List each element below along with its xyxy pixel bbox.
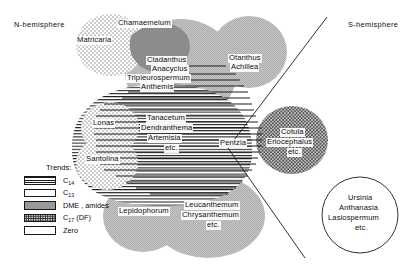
label-leucanthemum-etc: etc. [206, 221, 221, 230]
legend-item-c14: C14 [24, 175, 109, 186]
legend-label-c17: C17 (DF) [63, 213, 91, 223]
label-ursinia: Ursinia [348, 194, 372, 203]
legend-item-dme: DME , amides [24, 200, 109, 211]
legend-swatch-c13 [24, 189, 56, 198]
label-artemisia: Artemisia [147, 134, 182, 143]
label-lepidophorum: Lepidophorum [118, 207, 170, 216]
label-n-hemisphere: N-hemisphere [14, 21, 65, 30]
label-chrysanthemum: Chrysanthemum [181, 211, 240, 220]
label-lonas: Lonas [92, 119, 115, 128]
legend-item-c13: C13 [24, 188, 109, 199]
legend-swatch-c14 [24, 176, 56, 185]
legend-swatch-dme [24, 201, 56, 210]
legend-label-c13: C13 [63, 188, 74, 198]
label-leucanthemum: Leucanthemum [184, 201, 240, 210]
label-ursinia-etc: etc. [355, 224, 368, 233]
label-cotula-etc: etc. [287, 148, 302, 157]
label-dendranthema: Dendranthema [140, 124, 193, 133]
legend-label-dme: DME , amides [63, 201, 109, 211]
label-anthanasia: Anthanasia [339, 204, 378, 213]
legend-swatch-c17 [24, 214, 56, 223]
label-cotula: Cotula [280, 128, 305, 137]
legend: Trends: C14 C13 DME , amides C17 (DF) Ze… [24, 163, 109, 238]
legend-item-c17: C17 (DF) [24, 213, 109, 224]
chemotaxonomy-venn-diagram: N-hemisphere S-hemisphere Matricaria Cha… [0, 0, 418, 266]
blob-otanthus-achillea [211, 16, 287, 88]
label-artemisia-etc: etc. [164, 144, 179, 153]
label-chamaemelum: Chamaemelum [117, 19, 172, 28]
legend-swatch-zero [24, 226, 56, 235]
label-pentzia: Pentzia [219, 139, 247, 148]
label-matricaria: Matricaria [76, 36, 112, 45]
label-achillea: Achillea [230, 63, 259, 72]
label-lasiospermum: Lasiospermum [328, 214, 379, 223]
label-anthemis: Anthemis [140, 83, 174, 92]
label-tanacetum: Tanacetum [146, 114, 186, 123]
legend-label-c14: C14 [63, 176, 74, 186]
label-s-hemisphere: S-hemisphere [348, 21, 398, 30]
legend-title: Trends: [46, 163, 109, 172]
legend-item-zero: Zero [24, 225, 109, 236]
legend-label-zero: Zero [63, 226, 78, 236]
label-eriocephalus: Eriocephalus [266, 138, 313, 147]
